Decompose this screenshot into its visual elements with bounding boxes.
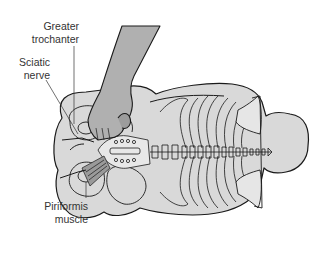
label-line: Piriformis (40, 200, 88, 213)
label-line: muscle (40, 213, 88, 226)
label-sciatic-nerve: Sciatic nerve (16, 56, 50, 81)
label-line: Sciatic (16, 56, 50, 69)
label-line: nerve (16, 69, 50, 82)
label-greater-trochanter: Greater trochanter (31, 20, 79, 45)
label-line: trochanter (31, 33, 79, 46)
label-piriformis-muscle: Piriformis muscle (40, 200, 88, 225)
label-line: Greater (31, 20, 79, 33)
